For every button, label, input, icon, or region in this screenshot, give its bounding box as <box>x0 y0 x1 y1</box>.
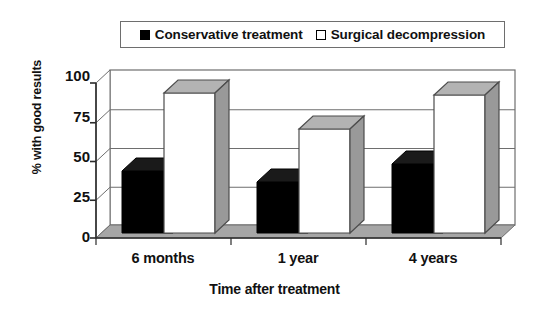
chart-canvas <box>0 0 549 314</box>
chart-figure: Conservative treatment Surgical decompre… <box>0 0 549 314</box>
x-axis-title: Time after treatment <box>0 281 549 297</box>
bar-surgical-1-year <box>299 116 364 233</box>
bar-surgical-6-months <box>164 80 229 233</box>
bar-surgical-4-years <box>434 82 499 233</box>
left-side-wall <box>96 70 110 238</box>
plot-area: % with good results 100 75 50 25 0 <box>0 0 549 314</box>
x-tick-label-6-months: 6 months <box>108 250 218 266</box>
x-tick-label-1-year: 1 year <box>243 250 353 266</box>
x-tick-label-4-years: 4 years <box>378 250 488 266</box>
